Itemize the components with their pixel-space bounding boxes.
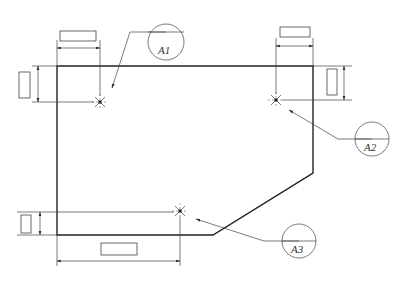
dimension-right-upper (282, 66, 352, 100)
dimension-top-left (57, 31, 100, 96)
dimension-left-lower (17, 212, 174, 235)
dimension-value-box (101, 243, 137, 255)
point-a3: A3 (172, 203, 316, 258)
dimension-bottom (57, 217, 180, 266)
part-outline (57, 66, 313, 235)
dimension-value-box (60, 31, 96, 41)
dimension-value-box (280, 27, 310, 37)
point-a2: A2 (268, 92, 389, 156)
technical-drawing: A1 A2 A3 (0, 0, 404, 284)
dimension-top-right (276, 27, 313, 94)
balloon-label-a1: A1 (157, 44, 170, 56)
dimension-value-box (327, 69, 337, 95)
balloon-label-a2: A2 (363, 141, 377, 153)
point-a1: A1 (92, 24, 184, 110)
dimension-value-box (21, 215, 31, 233)
dimension-value-box (19, 72, 30, 98)
balloon-label-a3: A3 (290, 243, 304, 255)
